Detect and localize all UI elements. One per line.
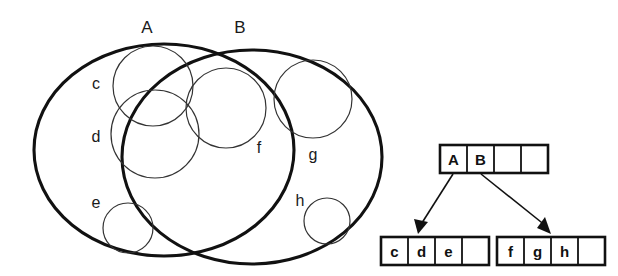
venn-label-d: d [92, 128, 101, 145]
edge-a-arrowhead [414, 219, 428, 234]
venn-circle-h [304, 198, 350, 244]
leaf-node-right-cell-2[interactable]: h [560, 243, 569, 260]
venn-set-a-group: A [34, 18, 294, 256]
venn-circle-b [122, 50, 382, 264]
edge-b-to-right-leaf [481, 174, 546, 226]
leaf-node-left-cell-2[interactable]: e [444, 243, 452, 260]
leaf-node-left-cell-1[interactable]: d [417, 243, 426, 260]
venn-label-f: f [257, 139, 262, 156]
root-node-cell-0[interactable]: A [448, 151, 459, 168]
venn-circle-e [103, 203, 153, 253]
root-node-cell-1[interactable]: B [475, 151, 486, 168]
venn-label-c: c [92, 75, 100, 92]
venn-label-g: g [309, 146, 318, 163]
venn-label-b: B [234, 18, 245, 37]
root-node[interactable]: A B [440, 145, 548, 173]
venn-circle-a [34, 44, 294, 256]
leaf-node-right-cell-1[interactable]: g [533, 243, 542, 260]
leaf-node-right[interactable]: f g h [497, 237, 605, 265]
leaf-node-left[interactable]: c d e [381, 237, 489, 265]
edge-a-to-left-leaf [420, 174, 453, 226]
venn-circle-f [186, 68, 266, 148]
leaf-node-left-cell-0[interactable]: c [390, 243, 398, 260]
tree-edges-group [414, 174, 551, 234]
venn-label-h: h [296, 192, 305, 209]
venn-label-a: A [141, 18, 153, 37]
venn-label-e: e [92, 194, 101, 211]
figure-canvas: A B c d e f g h [0, 0, 618, 276]
venn-circle-g [274, 60, 352, 138]
